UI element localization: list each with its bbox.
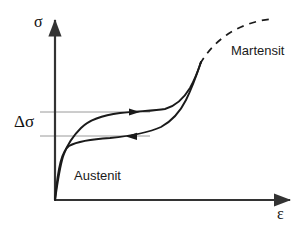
loading-direction-arrow <box>129 109 140 116</box>
stress-strain-diagram: σ ε Δσ Austenit Martensit <box>0 0 307 232</box>
austenite-region-label: Austenit <box>74 169 121 182</box>
unloading-direction-arrow <box>126 133 137 140</box>
martensite-region-label: Martensit <box>231 44 284 57</box>
delta-sigma-label: Δσ <box>14 113 34 130</box>
y-axis-label: σ <box>34 14 43 30</box>
diagram-canvas <box>0 0 307 232</box>
x-axis-label: ε <box>277 206 284 222</box>
